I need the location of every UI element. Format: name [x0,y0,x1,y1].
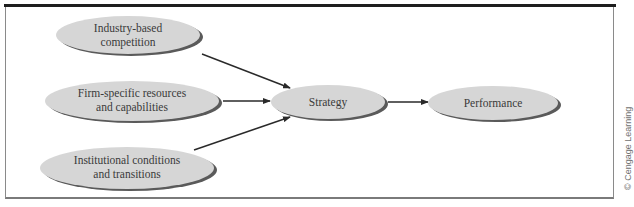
copyright-credit: © Cengage Learning [623,107,633,190]
arrow-industry-to-strategy [202,54,290,88]
node-label-line1: Industry-based [94,22,163,35]
node-label-line2: and transitions [93,168,161,180]
node-label: Performance [464,97,523,109]
node-institutional-conditions: Institutional conditions and transitions [40,147,217,191]
node-firm-specific-resources: Firm-specific resources and capabilities [45,81,222,123]
node-label-line2: competition [101,36,156,49]
arrow-institutional-to-strategy [194,117,290,150]
strategy-tripod-diagram: Industry-based competition Firm-specific… [0,0,634,207]
node-label-line1: Institutional conditions [74,154,181,166]
node-label: Strategy [309,96,348,109]
node-strategy: Strategy [271,85,388,121]
node-industry-based-competition: Industry-based competition [56,16,203,56]
node-label-line1: Firm-specific resources [78,87,187,100]
node-label-line2: and capabilities [96,101,168,114]
node-performance: Performance [428,86,561,122]
